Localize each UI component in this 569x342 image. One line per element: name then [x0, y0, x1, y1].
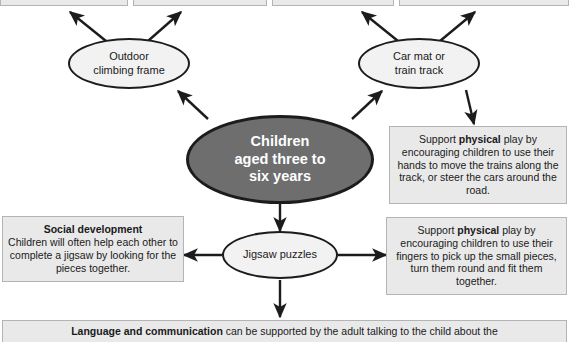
box-physical-play-trains: Support physical play by encouraging chi…: [389, 126, 567, 204]
node-children-aged-three-to-six: Children aged three to six years: [186, 115, 374, 204]
arrow-climbing-to-topbox2: [148, 12, 181, 41]
node-car-mat-train-track: Car mat or train track: [358, 38, 480, 89]
top-box-1: [0, 0, 128, 6]
box-language-and-communication: Language and communication can be suppor…: [2, 320, 567, 342]
arrow-carmat-to-topbox3: [362, 12, 398, 41]
physical-trains-lead: Support: [419, 133, 459, 145]
social-development-heading: Social development: [8, 223, 178, 236]
node-outdoor-climbing-frame: Outdoor climbing frame: [68, 38, 190, 89]
car-mat-train-track-line2: train track: [393, 64, 445, 77]
center-label-line3: six years: [234, 168, 325, 185]
center-label-line1: Children: [234, 133, 325, 150]
arrow-carmat-to-physical-trains: [466, 90, 474, 124]
arrow-climbing-to-topbox1: [70, 12, 106, 41]
center-label-line2: aged three to: [234, 151, 325, 168]
physical-pieces-strong: physical: [457, 224, 499, 236]
box-physical-play-pieces: Support physical play by encouraging chi…: [386, 217, 567, 295]
language-strong: Language and communication: [71, 325, 223, 337]
arrow-center-to-climbing: [178, 91, 208, 119]
outdoor-climbing-frame-line1: Outdoor: [93, 50, 165, 63]
outdoor-climbing-frame-line2: climbing frame: [93, 64, 165, 77]
physical-pieces-lead: Support: [418, 224, 458, 236]
arrow-center-to-carmat: [352, 91, 382, 119]
top-box-3: [272, 0, 394, 6]
jigsaw-puzzles-label: Jigsaw puzzles: [243, 248, 317, 261]
top-box-2: [133, 0, 267, 6]
social-development-body: Children will often help each other to c…: [8, 236, 178, 275]
node-jigsaw-puzzles: Jigsaw puzzles: [222, 231, 338, 279]
box-social-development: Social development Children will often h…: [2, 216, 184, 282]
car-mat-train-track-line1: Car mat or: [393, 50, 445, 63]
language-rest: can be supported by the adult talking to…: [223, 325, 498, 337]
arrow-carmat-to-topbox4: [440, 12, 475, 41]
top-box-4: [399, 0, 569, 6]
physical-trains-strong: physical: [459, 133, 501, 145]
